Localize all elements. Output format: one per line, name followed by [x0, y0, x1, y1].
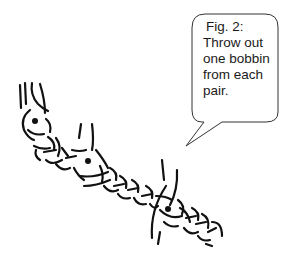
caption-line: pair. [203, 83, 283, 99]
speech-bubble-text: Fig. 2: Throw out one bobbin from each p… [203, 19, 283, 99]
pin-dot [165, 206, 171, 212]
figure-label: Fig. 2: [203, 19, 283, 35]
pin-markers [32, 118, 171, 212]
figure-canvas: Fig. 2: Throw out one bobbin from each p… [0, 0, 289, 264]
caption-line: Throw out [203, 35, 283, 51]
caption-line: one bobbin [203, 51, 283, 67]
pin-dot [32, 118, 38, 124]
caption-line: from each [203, 67, 283, 83]
pin-dot [85, 158, 91, 164]
